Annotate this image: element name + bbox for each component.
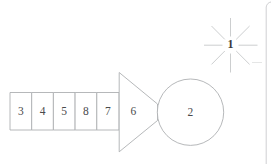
ray-nw: [212, 26, 225, 39]
cell-8-label: 8: [83, 105, 89, 117]
diagram-canvas: 3 4 5 8 7 6 2 1: [0, 0, 272, 165]
starburst-label: 1: [228, 37, 234, 51]
circle-shape[interactable]: 2: [157, 79, 223, 145]
trapezoid-shape[interactable]: 6: [119, 73, 157, 152]
starburst-icon: 1: [204, 18, 258, 73]
ray-se: [236, 51, 249, 64]
ray-ne: [236, 26, 249, 39]
cell-5-label: 5: [61, 105, 67, 117]
cell-row: 3 4 5 8 7: [10, 93, 119, 131]
page-border: [252, 2, 271, 164]
cell-4-label: 4: [40, 105, 46, 117]
circle-label: 2: [188, 106, 194, 118]
cell-3-label: 3: [18, 105, 24, 117]
cell-7-label: 7: [105, 105, 111, 117]
trapezoid-label: 6: [131, 105, 137, 117]
ray-sw: [212, 51, 225, 64]
figure-root: 3 4 5 8 7 6 2 1: [0, 0, 272, 165]
